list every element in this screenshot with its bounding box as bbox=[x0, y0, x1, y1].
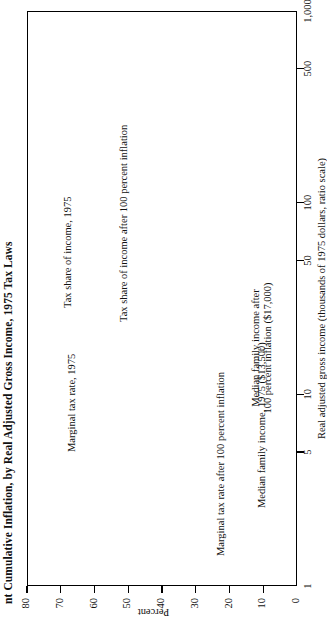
annotation-median-after-line2: 100 percent inflation ($17,000) bbox=[262, 282, 273, 413]
annotation-marginal-tax-rate-after-inflation: Marginal tax rate after 100 percent infl… bbox=[215, 372, 227, 556]
annotation-tax-share-of-income-1975: Tax share of income, 1975 bbox=[62, 196, 74, 308]
y-tick-label: 20 bbox=[223, 598, 234, 624]
y-tick-label: 30 bbox=[189, 598, 200, 624]
y-tick-mark bbox=[128, 586, 129, 593]
x-axis-label: Real adjusted gross income (thousands of… bbox=[316, 11, 327, 586]
x-tick-label: 500 bbox=[302, 49, 313, 89]
y-tick-mark bbox=[229, 586, 230, 593]
annotation-median-after-line1: Median family income after bbox=[250, 289, 261, 407]
x-tick-label: 10 bbox=[302, 374, 313, 414]
y-tick-mark bbox=[94, 586, 95, 593]
y-tick-label: 80 bbox=[20, 598, 31, 624]
y-tick-label: 60 bbox=[88, 598, 99, 624]
y-axis-label: Percent bbox=[124, 607, 184, 618]
y-tick-label: 70 bbox=[54, 598, 65, 624]
x-tick-label: 100 bbox=[302, 183, 313, 223]
annotation-tax-share-of-income-after-inflation: Tax share of income after 100 percent in… bbox=[118, 125, 130, 322]
x-tick-label: 5 bbox=[302, 432, 313, 472]
x-tick-label: 1,000 bbox=[302, 0, 313, 31]
y-tick-label: 0 bbox=[290, 598, 301, 624]
y-tick-mark bbox=[195, 586, 196, 593]
annotation-marginal-tax-rate-1975: Marginal tax rate, 1975 bbox=[66, 354, 78, 452]
annotation-median-family-income-after-inflation: Median family income after 100 percent i… bbox=[250, 264, 274, 432]
y-tick-mark bbox=[26, 586, 27, 593]
x-tick-label: 50 bbox=[302, 240, 313, 280]
y-tick-mark bbox=[60, 586, 61, 593]
y-tick-mark bbox=[263, 586, 264, 593]
figure-title: nt Cumulative Inflation, by Real Adjuste… bbox=[2, 241, 14, 604]
y-tick-label: 10 bbox=[256, 598, 267, 624]
x-tick-label: 1 bbox=[302, 566, 313, 606]
y-tick-mark bbox=[161, 586, 162, 593]
